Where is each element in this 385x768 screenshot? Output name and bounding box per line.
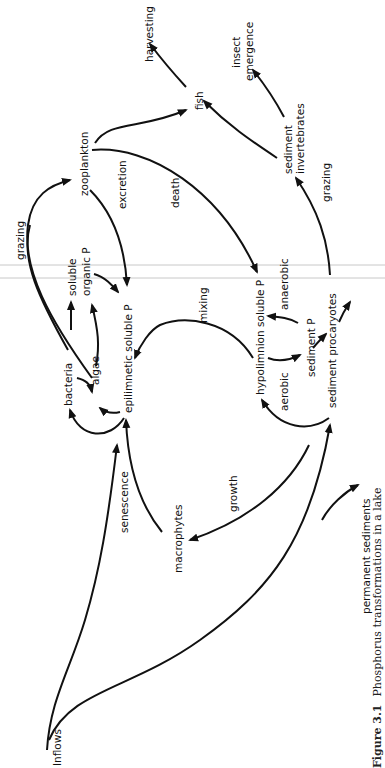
- node-hypolimnion-soluble-p: hypolimnion soluble P: [254, 280, 266, 395]
- figure-caption: Figure 3.1Phosphorus transformations in …: [371, 487, 384, 768]
- edge-inflows-to-sediment: [49, 425, 330, 740]
- label-death: death: [169, 178, 181, 208]
- edge-sediment-to-hypolimnion: [262, 400, 329, 426]
- edge-invert-to-fish: [204, 101, 277, 158]
- edge-fish-to-harvesting: [150, 44, 186, 87]
- node-sediment-invertebrates-line2: invertebrates: [294, 103, 306, 174]
- node-sediment-p: sediment P: [305, 318, 317, 377]
- node-insect-emergence-line2: emergence: [243, 22, 255, 81]
- edge-procaryotes-out: [339, 302, 350, 322]
- label-growth: growth: [227, 475, 239, 512]
- edge-aerobic: [268, 355, 300, 360]
- node-soluble-organic-p-line2: organic P: [80, 247, 92, 296]
- edge-epi-to-algae: [100, 408, 120, 413]
- label-mixing: mixing: [197, 287, 209, 323]
- node-macrophytes: macrophytes: [172, 504, 184, 573]
- edge-zoo-to-fish: [95, 110, 186, 143]
- phosphorus-diagram: Inflows macrophytes epilimnetic soluble …: [0, 0, 385, 768]
- edge-growth: [190, 445, 309, 540]
- node-insect-emergence-line1: insect: [230, 37, 242, 68]
- edge-grazing-zooplankton: [27, 225, 68, 350]
- edge-senescence: [126, 420, 162, 532]
- edge-to-permanent: [322, 485, 358, 520]
- edge-soluble-to-epi: [94, 274, 118, 292]
- label-anaerobic: anaerobic: [278, 258, 290, 310]
- label-grazing-right: grazing: [320, 163, 332, 202]
- node-epilimnetic-soluble-p: epilimnetic soluble P: [122, 304, 134, 413]
- figure-caption-text: Phosphorus transformations in a lake: [371, 487, 384, 696]
- edge-inflows-to-epilimnetic: [47, 445, 117, 750]
- node-algae: algae: [89, 356, 101, 385]
- label-grazing-top: grazing: [14, 221, 26, 260]
- node-sediment-procaryotes: sediment procaryotes: [326, 293, 338, 408]
- node-soluble-organic-p-line1: soluble: [66, 258, 78, 296]
- node-bacteria: bacteria: [62, 363, 74, 406]
- node-harvesting: harvesting: [143, 6, 155, 62]
- label-aerobic: aerobic: [278, 372, 290, 411]
- figure-number: Figure 3.1: [371, 705, 384, 768]
- edge-invert-to-insect: [253, 70, 284, 117]
- node-zooplankton: zooplankton: [78, 132, 90, 196]
- label-senescence: senescence: [118, 471, 130, 533]
- node-fish: fish: [193, 91, 205, 110]
- edge-mixing: [135, 321, 253, 358]
- node-sediment-invertebrates-line1: sediment: [282, 125, 294, 174]
- edge-anaerobic: [268, 316, 298, 323]
- node-inflows: Inflows: [51, 729, 63, 766]
- label-excretion: excretion: [116, 160, 128, 209]
